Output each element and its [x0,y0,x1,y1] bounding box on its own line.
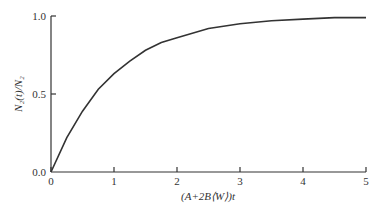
y-tick-label: 0.5 [32,88,46,100]
x-tick-label: 3 [237,175,243,187]
y-axis: 1.0 0.5 0.0 N₂(t)/N₂ [12,10,56,178]
x-tick-label: 2 [174,175,180,187]
x-tick-label: 5 [363,175,369,187]
x-tick-label: 1 [111,175,117,187]
data-line [51,18,366,172]
x-tick-label: 0 [48,175,54,187]
chart: 1.0 0.5 0.0 N₂(t)/N₂ 012345 (A+2B⟨W⟩)t [0,0,381,208]
x-tick-label: 4 [300,175,306,187]
x-axis: 012345 (A+2B⟨W⟩)t [48,167,369,203]
y-tick-label: 1.0 [32,10,46,22]
y-axis-title: N₂(t)/N₂ [12,76,25,113]
x-axis-title: (A+2B⟨W⟩)t [181,190,236,203]
y-tick-label: 0.0 [32,166,46,178]
